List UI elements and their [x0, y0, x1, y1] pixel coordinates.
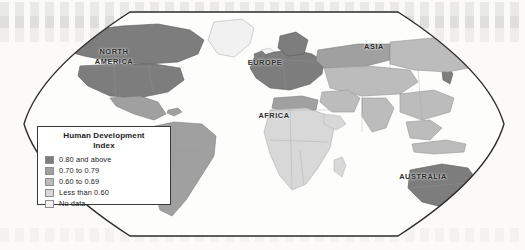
legend-item-label: 0.80 and above: [59, 155, 111, 164]
legend-swatch-icon: [45, 167, 54, 175]
legend-item: 0.70 to 0.79: [45, 165, 170, 176]
legend-swatch-icon: [45, 156, 54, 164]
legend-item-label: 0.60 to 0.69: [59, 177, 99, 186]
legend-title: Human Development Index: [38, 131, 170, 151]
legend-item: No data: [45, 198, 170, 209]
legend-item: Less than 0.60: [45, 187, 170, 198]
legend-swatch-icon: [45, 189, 54, 197]
legend-swatch-icon: [45, 200, 54, 208]
world-map-figure: NORTH AMERICA SOUTH AMERICA EUROPE AFRIC…: [0, 0, 525, 250]
legend-item-label: No data: [59, 199, 86, 208]
legend-item: 0.60 to 0.69: [45, 176, 170, 187]
legend-swatch-icon: [45, 178, 54, 186]
legend-title-line1: Human Development: [44, 131, 164, 141]
legend-title-line2: Index: [44, 141, 164, 151]
legend: Human Development Index 0.80 and above 0…: [37, 126, 171, 205]
legend-item: 0.80 and above: [45, 154, 170, 165]
legend-items: 0.80 and above 0.70 to 0.79 0.60 to 0.69…: [38, 154, 170, 209]
legend-item-label: 0.70 to 0.79: [59, 166, 99, 175]
legend-item-label: Less than 0.60: [59, 188, 109, 197]
